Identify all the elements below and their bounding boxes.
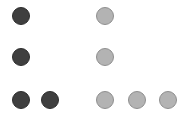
light-circle-icon: [159, 91, 177, 109]
light-circle-icon: [128, 91, 146, 109]
dark-circle-icon: [12, 7, 30, 25]
light-circle-icon: [96, 7, 114, 25]
light-circle-icon: [96, 91, 114, 109]
dark-circle-icon: [12, 48, 30, 66]
dark-circle-icon: [12, 91, 30, 109]
dark-circle-icon: [41, 91, 59, 109]
light-circle-icon: [96, 48, 114, 66]
